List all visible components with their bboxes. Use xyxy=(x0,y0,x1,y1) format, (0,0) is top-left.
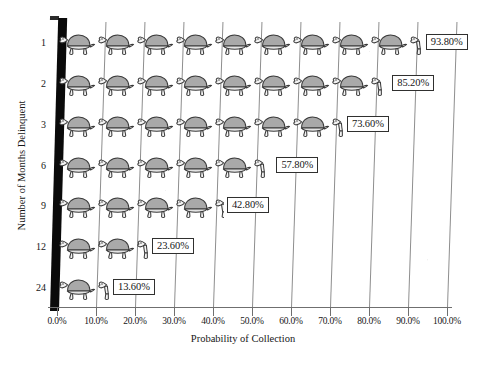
turtle-icon xyxy=(57,190,96,220)
turtle-icon xyxy=(135,150,174,180)
pictogram-row xyxy=(57,66,389,100)
turtle-icon xyxy=(57,150,96,180)
pictogram-chart: Number of Months Delinquent 123691224 0.… xyxy=(0,0,486,366)
x-axis-tick xyxy=(252,307,253,316)
pictogram-row xyxy=(57,25,423,59)
pictogram-row xyxy=(57,107,344,141)
turtle-icon xyxy=(291,68,330,98)
turtle-icon xyxy=(252,27,291,57)
turtle-icon xyxy=(174,150,213,180)
x-axis-tick xyxy=(135,307,136,316)
grid-line xyxy=(330,22,340,307)
turtle-icon xyxy=(57,272,96,302)
value-label: 93.80% xyxy=(426,34,468,50)
value-label: 57.80% xyxy=(276,156,318,172)
x-axis-tick-label: 100.0% xyxy=(424,316,470,326)
value-label: 42.80% xyxy=(227,197,269,213)
x-axis-line xyxy=(48,307,452,308)
x-axis-tick xyxy=(57,307,58,316)
turtle-icon xyxy=(135,109,174,139)
x-axis-tick xyxy=(330,307,331,316)
turtle-icon xyxy=(96,190,135,220)
pictogram-row xyxy=(57,270,110,304)
value-label: 85.20% xyxy=(392,75,434,91)
x-axis-tick xyxy=(369,307,370,316)
turtle-icon xyxy=(252,68,291,98)
turtle-icon-partial xyxy=(96,272,110,302)
turtle-icon xyxy=(291,109,330,139)
turtle-icon xyxy=(135,190,174,220)
pictogram-row xyxy=(57,148,273,182)
turtle-icon-partial xyxy=(135,231,149,261)
turtle-icon xyxy=(57,27,96,57)
turtle-icon xyxy=(57,109,96,139)
x-axis-tick xyxy=(447,307,448,316)
turtle-icon xyxy=(174,109,213,139)
y-axis-tick-label: 9 xyxy=(18,200,46,211)
turtle-icon-partial xyxy=(252,150,273,180)
y-axis-tick-label: 12 xyxy=(18,240,46,251)
x-axis-tick xyxy=(213,307,214,316)
turtle-icon xyxy=(174,190,213,220)
turtle-icon xyxy=(96,68,135,98)
turtle-icon xyxy=(57,231,96,261)
value-label: 13.60% xyxy=(113,279,155,295)
turtle-icon xyxy=(330,68,369,98)
turtle-icon xyxy=(252,109,291,139)
turtle-icon-partial xyxy=(330,109,344,139)
y-axis-tick-label: 3 xyxy=(18,118,46,129)
turtle-icon xyxy=(96,150,135,180)
grid-line xyxy=(447,22,457,307)
x-axis-tick xyxy=(96,307,97,316)
y-axis-tick-label: 6 xyxy=(18,159,46,170)
turtle-icon xyxy=(213,109,252,139)
value-label: 73.60% xyxy=(347,116,389,132)
y-axis-tick-label: 1 xyxy=(18,37,46,48)
x-axis-tick xyxy=(291,307,292,316)
y-axis-tick-label: 24 xyxy=(18,281,46,292)
turtle-icon xyxy=(213,68,252,98)
pictogram-row xyxy=(57,188,224,222)
turtle-icon xyxy=(174,27,213,57)
turtle-icon xyxy=(213,27,252,57)
x-axis-tick xyxy=(408,307,409,316)
turtle-icon-partial xyxy=(369,68,389,98)
value-label: 23.60% xyxy=(152,238,194,254)
turtle-icon xyxy=(135,68,174,98)
x-axis-tick xyxy=(174,307,175,316)
turtle-icon xyxy=(174,68,213,98)
pictogram-row xyxy=(57,229,149,263)
turtle-icon xyxy=(57,68,96,98)
turtle-icon xyxy=(369,27,408,57)
x-axis-title: Probability of Collection xyxy=(0,333,486,344)
turtle-icon-partial xyxy=(408,27,423,57)
turtle-icon xyxy=(213,150,252,180)
turtle-icon xyxy=(96,27,135,57)
grid-line xyxy=(408,22,418,307)
turtle-icon xyxy=(330,27,369,57)
turtle-icon xyxy=(96,231,135,261)
turtle-icon xyxy=(96,109,135,139)
grid-line xyxy=(369,22,379,307)
turtle-icon xyxy=(291,27,330,57)
turtle-icon-partial xyxy=(213,190,224,220)
y-axis-tick-label: 2 xyxy=(18,78,46,89)
turtle-icon xyxy=(135,27,174,57)
